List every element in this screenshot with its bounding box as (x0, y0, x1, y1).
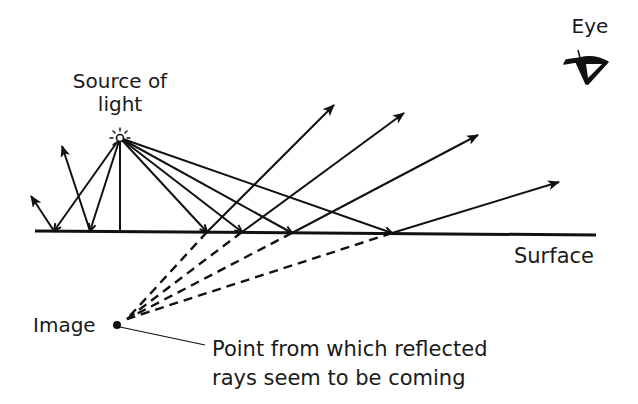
reflected-ray (62, 146, 90, 231)
image-point-dot (113, 321, 121, 329)
eye-label: Eye (572, 14, 609, 38)
note-line1: Point from which reflected (212, 337, 487, 361)
reflection-diagram: Source of light Eye Surface Image Point … (0, 0, 638, 404)
image-leader-line (120, 327, 205, 345)
virtual-ray (127, 233, 392, 319)
surface-label: Surface (514, 244, 594, 268)
incident-ray (120, 138, 242, 232)
virtual-ray-extensions (127, 232, 392, 319)
light-rays (31, 105, 559, 234)
reflected-ray (207, 105, 334, 232)
incident-ray (120, 138, 292, 233)
source-label-line2: light (98, 92, 142, 116)
note-line2: rays seem to be coming (212, 366, 465, 390)
virtual-ray (127, 232, 242, 319)
surface-line (35, 231, 596, 235)
incident-ray (90, 138, 120, 231)
image-label: Image (33, 313, 96, 337)
source-label-line1: Source of (73, 69, 168, 93)
surface (35, 231, 596, 235)
reflected-ray (31, 196, 54, 231)
reflected-ray (392, 182, 559, 233)
incident-ray (120, 138, 207, 232)
eye-icon (564, 50, 608, 84)
reflected-ray (292, 135, 478, 233)
virtual-ray (127, 232, 207, 319)
diagram-canvas: Source of light Eye Surface Image Point … (0, 0, 638, 404)
virtual-ray (127, 233, 292, 319)
